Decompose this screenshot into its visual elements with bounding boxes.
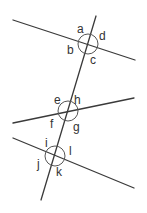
angle-label-h: h [74, 93, 81, 107]
angle-label-b: b [67, 43, 74, 57]
transversal-diagram: adbcehfgiljk [0, 0, 147, 213]
angle-label-a: a [77, 22, 84, 36]
line-1 [13, 20, 135, 60]
angle-label-f: f [50, 117, 54, 131]
angle-label-j: j [36, 157, 40, 171]
angle-label-c: c [90, 53, 96, 67]
angle-label-e: e [54, 93, 61, 107]
angle-label-l: l [69, 144, 72, 158]
line-3 [13, 138, 134, 188]
angle-label-k: k [56, 165, 63, 179]
angle-label-d: d [99, 29, 106, 43]
angle-label-i: i [45, 136, 48, 150]
angle-label-g: g [73, 120, 80, 134]
